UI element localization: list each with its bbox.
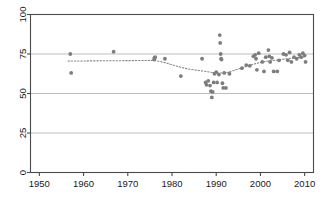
data-point [205,83,209,87]
data-point [264,55,268,59]
data-point [153,55,157,59]
data-point [208,84,212,88]
y-tick-label: 25 [17,128,28,139]
data-point [267,48,271,52]
data-point [304,60,308,64]
data-point [210,96,214,100]
data-point [268,60,272,64]
data-point [262,69,266,73]
data-point [220,58,224,62]
data-point [240,66,244,70]
data-point [289,60,293,64]
scatter-plot-figure: 0255075100 1950196019701980199020002010 [0,0,331,209]
data-point [112,50,116,54]
data-point [288,51,292,55]
x-tick-label: 1960 [73,178,94,189]
x-tick-label: 1980 [161,178,182,189]
data-point [222,71,226,75]
data-point [215,81,219,85]
y-tick-label: 50 [17,88,28,99]
data-point [217,73,221,77]
data-point [200,57,204,61]
x-tick-label: 2000 [250,178,271,189]
data-point [275,69,279,73]
y-axis-tick-labels: 0255075100 [17,7,28,176]
data-point [303,54,307,58]
data-point [224,86,228,90]
data-point [228,72,232,76]
y-tick-label: 75 [17,49,28,60]
data-point [255,68,259,72]
data-point [211,90,215,94]
data-point [286,58,290,62]
data-point [277,58,281,62]
data-point [260,60,264,64]
x-axis-tick-labels: 1950196019701980199020002010 [29,178,315,189]
trend-line-path [68,57,305,73]
data-point [248,64,252,68]
chart-canvas: 0255075100 1950196019701980199020002010 [0,0,331,209]
data-point [218,33,222,37]
data-point [219,52,223,56]
data-point [284,53,288,57]
data-point [69,71,73,75]
grid-lines [31,54,314,173]
data-point [206,79,210,83]
x-tick-label: 1970 [117,178,138,189]
data-point [218,41,222,45]
data-points [68,33,307,99]
y-tick-label: 100 [17,7,28,23]
x-tick-label: 2010 [294,178,315,189]
data-point [253,53,257,57]
y-tick-label: 0 [17,170,28,175]
data-point [212,81,216,85]
data-point [270,56,274,60]
data-point [257,51,261,55]
x-tick-label: 1950 [29,178,50,189]
data-point [179,74,183,78]
data-point [299,55,303,59]
data-point [68,52,72,56]
data-point [272,69,276,73]
x-tick-label: 1990 [206,178,227,189]
data-point [254,57,258,61]
data-point [163,57,167,61]
data-point [221,81,225,85]
trend-line [68,57,305,73]
data-point [295,57,299,61]
data-point [244,63,248,67]
